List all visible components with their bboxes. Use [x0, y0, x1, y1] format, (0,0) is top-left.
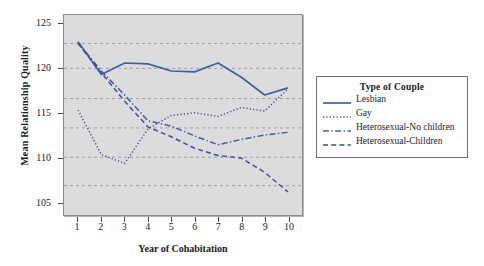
x-tick-label: 1 [67, 222, 87, 232]
x-tick-label: 6 [185, 222, 205, 232]
series-line-gay [78, 89, 288, 164]
legend-item-lesbian[interactable]: Lesbian [322, 92, 467, 106]
legend-line-sample [322, 122, 352, 132]
x-tick-label: 2 [91, 222, 111, 232]
legend-item-label: Gay [356, 108, 372, 118]
plot-area [63, 14, 303, 216]
chart-figure: Mean Relationship Quality 12512011511010… [0, 0, 484, 266]
y-tick-label: 115 [21, 108, 51, 118]
y-tick-label: 125 [21, 18, 51, 28]
x-tick-label: 5 [161, 222, 181, 232]
series-line-heterosexual-no-children [78, 43, 288, 145]
y-tick-label: 105 [21, 198, 51, 208]
x-tick-label: 7 [208, 222, 228, 232]
x-tick-label: 8 [232, 222, 252, 232]
legend-item-label: Lesbian [356, 94, 386, 104]
chart-legend: Type of Couple LesbianGayHeterosexual-No… [316, 76, 468, 158]
x-tick-label: 4 [138, 222, 158, 232]
legend-item-label: Heterosexual-Children [356, 136, 443, 146]
series-line-heterosexual-children [78, 43, 288, 191]
x-tick-label: 9 [255, 222, 275, 232]
x-axis-title: Year of Cohabitation [63, 243, 303, 254]
x-tick-label: 3 [114, 222, 134, 232]
x-tick-label: 10 [279, 222, 299, 232]
legend-item-gay[interactable]: Gay [322, 106, 467, 120]
legend-item-heterosexual-children[interactable]: Heterosexual-Children [322, 134, 467, 148]
legend-line-sample [322, 136, 352, 146]
legend-title: Type of Couple [317, 82, 467, 92]
legend-line-sample [322, 94, 352, 104]
y-tick-label: 120 [21, 63, 51, 73]
y-tick-label: 110 [21, 153, 51, 163]
legend-item-label: Heterosexual-No children [356, 122, 454, 132]
legend-line-sample [322, 108, 352, 118]
legend-item-heterosexual-no-children[interactable]: Heterosexual-No children [322, 120, 467, 134]
